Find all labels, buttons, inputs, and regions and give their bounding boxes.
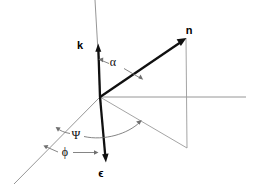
label-vector-epsilon: ϵ	[98, 167, 103, 179]
label-vector-k: k	[77, 39, 84, 51]
label-vector-n: n	[186, 24, 193, 36]
vector-diagram-canvas: k n ϵ α Ψ ϕ	[0, 0, 254, 188]
label-angle-phi: ϕ	[62, 145, 68, 159]
vector-k-shaft	[98, 50, 100, 97]
vector-diagram-figure: k n ϵ α Ψ ϕ	[0, 0, 254, 188]
label-angle-alpha: α	[110, 55, 117, 69]
label-angle-psi: Ψ	[72, 128, 81, 142]
